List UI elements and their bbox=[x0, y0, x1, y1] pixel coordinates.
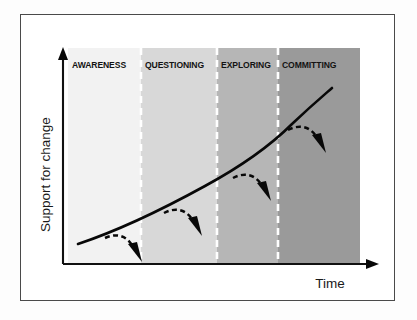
diagram-canvas: AWARENESS QUESTIONING EXPLORING COMMITTI… bbox=[0, 0, 417, 320]
stage-label-exploring: EXPLORING bbox=[221, 60, 271, 70]
x-axis-arrowhead bbox=[366, 259, 379, 269]
x-axis-label: Time bbox=[315, 276, 345, 291]
y-axis-label: Support for change bbox=[38, 117, 53, 232]
figure-root: AWARENESS QUESTIONING EXPLORING COMMITTI… bbox=[0, 0, 417, 320]
stage-label-questioning: QUESTIONING bbox=[145, 60, 204, 70]
stage-label-committing: COMMITTING bbox=[282, 60, 337, 70]
stage-band-awareness bbox=[68, 48, 141, 264]
stage-label-awareness: AWARENESS bbox=[72, 60, 126, 70]
stage-band-exploring bbox=[217, 48, 278, 264]
stage-band-committing bbox=[278, 48, 360, 264]
y-axis-arrowhead bbox=[58, 47, 68, 60]
stage-band-questioning bbox=[141, 48, 217, 264]
